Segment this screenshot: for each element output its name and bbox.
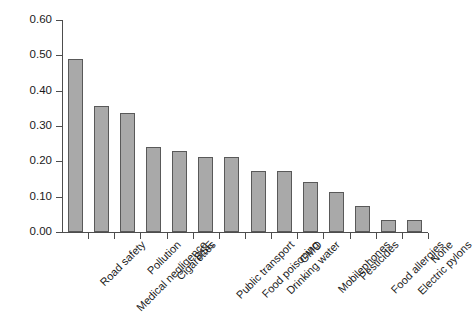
bar[interactable]	[94, 106, 109, 232]
bar[interactable]	[68, 59, 83, 232]
x-axis-tick-mark	[88, 233, 89, 239]
y-axis-tick-label: 0.30	[0, 120, 52, 132]
x-axis-category-label: Road safety	[98, 239, 147, 288]
x-axis-tick-mark	[219, 233, 220, 239]
bar[interactable]	[277, 171, 292, 232]
bar[interactable]	[172, 151, 187, 232]
bar[interactable]	[198, 157, 213, 232]
y-axis-tick-label: 0.40	[0, 85, 52, 97]
x-axis-tick-mark	[271, 233, 272, 239]
y-axis-tick-label: 0.20	[0, 155, 52, 167]
bar[interactable]	[120, 113, 135, 232]
x-axis-tick-mark	[167, 233, 168, 239]
y-axis-tick-labels: 0.600.500.400.300.200.100.00	[0, 0, 52, 320]
bars-layer	[62, 20, 428, 233]
y-axis-tick-label: 0.00	[0, 226, 52, 238]
x-axis-tick-mark	[114, 233, 115, 239]
x-axis-tick-mark	[245, 233, 246, 239]
bar[interactable]	[355, 206, 370, 232]
bar[interactable]	[381, 220, 396, 232]
bar[interactable]	[251, 171, 266, 232]
bar[interactable]	[407, 220, 422, 232]
y-axis-tick-label: 0.10	[0, 191, 52, 203]
x-axis-tick-mark	[402, 233, 403, 239]
y-axis-tick-label: 0.60	[0, 14, 52, 26]
x-axis-tick-mark	[297, 233, 298, 239]
bar[interactable]	[224, 157, 239, 232]
x-axis-tick-mark	[376, 233, 377, 239]
x-axis-tick-mark	[350, 233, 351, 239]
bar[interactable]	[303, 182, 318, 232]
x-axis-tick-mark	[428, 233, 429, 239]
bar[interactable]	[329, 192, 344, 232]
bar[interactable]	[146, 147, 161, 232]
x-axis-tick-mark	[323, 233, 324, 239]
x-axis-tick-mark	[193, 233, 194, 239]
y-axis-tick-label: 0.50	[0, 49, 52, 61]
